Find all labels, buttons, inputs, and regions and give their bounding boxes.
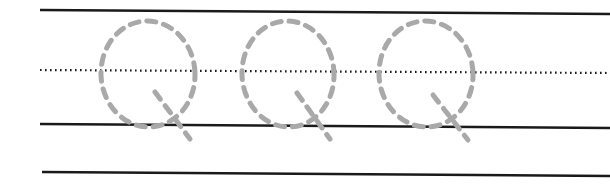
q-bowl — [97, 18, 198, 130]
descender-line — [42, 172, 610, 176]
q-bowl — [375, 18, 476, 130]
top-line — [40, 10, 610, 14]
handwriting-worksheet — [0, 0, 610, 193]
trace-letter-q-2[interactable] — [238, 18, 337, 139]
trace-letter-q-3[interactable] — [375, 18, 476, 140]
trace-letter-q-1[interactable] — [97, 18, 198, 139]
baseline — [40, 124, 610, 128]
midline-dotted — [40, 70, 610, 73]
q-tail — [297, 93, 330, 139]
q-tail — [155, 92, 190, 139]
q-bowl — [238, 18, 337, 130]
